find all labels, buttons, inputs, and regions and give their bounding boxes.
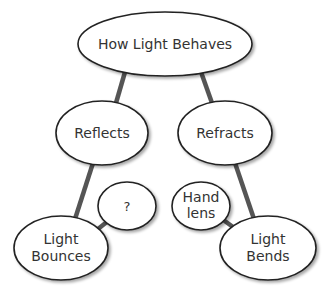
- node-reflects-label: Reflects: [74, 125, 130, 141]
- node-bounces-label-line1: Light: [44, 231, 79, 247]
- concept-map: How Light Behaves Reflects Refracts ? Ha…: [0, 0, 330, 299]
- node-reflects: Reflects: [56, 101, 148, 165]
- node-bends-label-line2: Bends: [246, 248, 289, 264]
- edge-reflects-bounces: [75, 163, 93, 219]
- node-bends: Light Bends: [220, 216, 316, 280]
- node-root: How Light Behaves: [78, 12, 252, 76]
- edge-root-refracts: [201, 72, 212, 103]
- node-bends-label-line1: Light: [251, 231, 286, 247]
- node-handlens-label-line2: lens: [187, 205, 216, 221]
- edge-refracts-bends: [235, 163, 254, 219]
- node-question: ?: [98, 182, 156, 230]
- node-bounces: Light Bounces: [14, 216, 108, 280]
- node-refracts: Refracts: [178, 101, 272, 165]
- node-question-label: ?: [124, 199, 131, 214]
- node-root-label: How Light Behaves: [98, 36, 232, 52]
- node-bounces-label-line2: Bounces: [31, 248, 91, 264]
- node-refracts-label: Refracts: [196, 125, 253, 141]
- node-handlens: Hand lens: [172, 182, 230, 230]
- node-handlens-label-line1: Hand: [183, 189, 220, 205]
- edge-root-reflects: [116, 72, 125, 103]
